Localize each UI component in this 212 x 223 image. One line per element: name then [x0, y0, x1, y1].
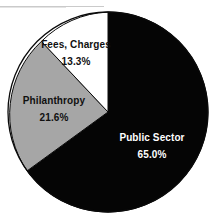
pie-graphic [0, 0, 212, 223]
pie-chart-figure: Public Sector 65.0% Philanthropy 21.6% F… [0, 0, 212, 223]
